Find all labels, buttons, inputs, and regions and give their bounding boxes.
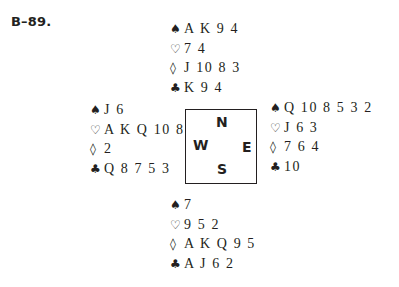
problem-label: B–89.: [11, 14, 51, 29]
south-clubs: ♣A J 6 2: [170, 254, 256, 274]
diamond-icon: ◊: [170, 235, 184, 255]
east-hand: ♠Q 10 8 5 3 2 ♡J 6 3 ◊7 6 4 ♣10: [270, 98, 373, 176]
south-spades: ♠7: [170, 195, 256, 215]
diamond-icon: ◊: [270, 138, 284, 158]
spade-icon: ♠: [270, 99, 284, 119]
heart-icon: ♡: [90, 121, 104, 141]
east-spades: ♠Q 10 8 5 3 2: [270, 98, 373, 118]
heart-icon: ♡: [170, 40, 184, 60]
heart-icon: ♡: [270, 119, 284, 139]
west-hand: ♠J 6 ♡A K Q 10 8 ◊2 ♣Q 8 7 5 3: [90, 100, 185, 178]
west-diamonds-cards: 2: [104, 141, 113, 156]
west-diamonds: ◊2: [90, 139, 185, 159]
north-hearts-cards: 7 4: [184, 41, 206, 56]
diamond-icon: ◊: [90, 140, 104, 160]
compass-south: S: [217, 161, 227, 177]
south-clubs-cards: A J 6 2: [184, 256, 235, 271]
spade-icon: ♠: [170, 196, 184, 216]
spade-icon: ♠: [170, 20, 184, 40]
diamond-icon: ◊: [170, 59, 184, 79]
north-spades-cards: A K 9 4: [184, 21, 239, 36]
north-clubs: ♣K 9 4: [170, 78, 241, 98]
compass-north: N: [216, 114, 228, 130]
west-hearts: ♡A K Q 10 8: [90, 120, 185, 140]
south-diamonds: ◊A K Q 9 5: [170, 234, 256, 254]
north-clubs-cards: K 9 4: [184, 80, 223, 95]
club-icon: ♣: [90, 160, 104, 180]
east-diamonds-cards: 7 6 4: [284, 139, 320, 154]
west-spades-cards: J 6: [104, 102, 125, 117]
west-spades: ♠J 6: [90, 100, 185, 120]
south-hearts-cards: 9 5 2: [184, 217, 220, 232]
south-spades-cards: 7: [184, 197, 193, 212]
club-icon: ♣: [270, 158, 284, 178]
compass-east: E: [242, 139, 252, 155]
south-hearts: ♡9 5 2: [170, 215, 256, 235]
compass-west: W: [193, 137, 208, 153]
west-clubs-cards: Q 8 7 5 3: [104, 161, 171, 176]
west-clubs: ♣Q 8 7 5 3: [90, 159, 185, 179]
compass-box: N W E S: [185, 109, 257, 184]
heart-icon: ♡: [170, 216, 184, 236]
east-clubs-cards: 10: [284, 159, 301, 174]
club-icon: ♣: [170, 255, 184, 275]
east-spades-cards: Q 10 8 5 3 2: [284, 100, 373, 115]
north-spades: ♠A K 9 4: [170, 19, 241, 39]
east-hearts: ♡J 6 3: [270, 118, 373, 138]
spade-icon: ♠: [90, 101, 104, 121]
north-hearts: ♡7 4: [170, 39, 241, 59]
south-diamonds-cards: A K Q 9 5: [184, 236, 256, 251]
east-hearts-cards: J 6 3: [284, 120, 318, 135]
north-diamonds: ◊J 10 8 3: [170, 58, 241, 78]
north-hand: ♠A K 9 4 ♡7 4 ◊J 10 8 3 ♣K 9 4: [170, 19, 241, 97]
west-hearts-cards: A K Q 10 8: [104, 122, 185, 137]
south-hand: ♠7 ♡9 5 2 ◊A K Q 9 5 ♣A J 6 2: [170, 195, 256, 273]
club-icon: ♣: [170, 79, 184, 99]
east-clubs: ♣10: [270, 157, 373, 177]
north-diamonds-cards: J 10 8 3: [184, 60, 241, 75]
east-diamonds: ◊7 6 4: [270, 137, 373, 157]
